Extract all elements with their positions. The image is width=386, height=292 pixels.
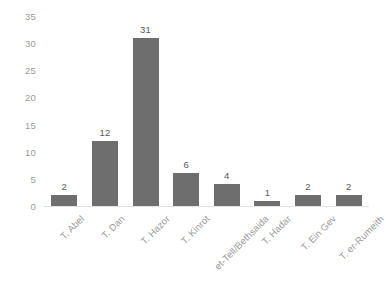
x-axis-tick-label: T. Abel [58,213,86,241]
bar-group: 2 [288,16,329,206]
y-axis: 05101520253035 [0,0,44,292]
x-axis-tick: T. Hadar [247,207,288,292]
bar[interactable] [92,141,118,206]
bar-value-label: 2 [346,181,351,192]
bar-value-label: 4 [224,170,229,181]
y-axis-tick-label: 35 [25,11,36,22]
bar[interactable] [51,195,77,206]
bar-value-label: 31 [140,24,151,35]
x-axis-tick: T. Kinrot [166,207,207,292]
bar[interactable] [214,184,240,206]
x-axis-tick: T. Ein Gev [288,207,329,292]
y-axis-tick-label: 15 [25,119,36,130]
bar-value-label: 2 [305,181,310,192]
bar-value-label: 6 [183,159,188,170]
x-axis-tick: T. Dan [85,207,126,292]
bar[interactable] [295,195,321,206]
x-axis-tick-label: T. Dan [99,213,127,241]
bar-group: 12 [85,16,126,206]
y-axis-tick-label: 20 [25,92,36,103]
bar-group: 4 [207,16,248,206]
y-axis-tick-label: 25 [25,65,36,76]
x-axis-tick: T. Abel [44,207,85,292]
bar-group: 1 [247,16,288,206]
bar-group: 31 [125,16,166,206]
bar-value-label: 2 [62,181,67,192]
x-axis-tick: et-Tell/Bethsaida [207,207,248,292]
x-axis: T. AbelT. DanT. HazorT. Kinrotet-Tell/Be… [44,207,369,292]
y-axis-tick-label: 0 [31,201,36,212]
bar-value-label: 1 [265,187,270,198]
bar[interactable] [133,38,159,206]
plot-area: 2123164122 [44,16,369,206]
bar[interactable] [173,173,199,206]
x-axis-tick-label: T. er-Rumeith [337,213,386,262]
y-axis-tick-label: 5 [31,173,36,184]
x-axis-tick: T. er-Rumeith [328,207,369,292]
bar-group: 2 [44,16,85,206]
bar-group: 6 [166,16,207,206]
bar[interactable] [336,195,362,206]
bar-group: 2 [328,16,369,206]
y-axis-tick-label: 10 [25,146,36,157]
y-axis-tick-label: 30 [25,38,36,49]
x-axis-tick: T. Hazor [125,207,166,292]
bar-value-label: 12 [99,127,110,138]
